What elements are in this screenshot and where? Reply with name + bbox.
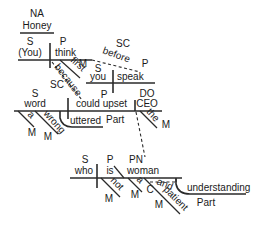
word-understanding: understanding xyxy=(187,182,250,193)
role-label-part-understanding: Part xyxy=(197,197,216,208)
role-label-m-wrong: M xyxy=(44,131,52,142)
clause-because: S word P could upset DO CEO a M wrong M … xyxy=(14,88,170,142)
role-label-c: C xyxy=(146,184,153,195)
role-label-s-who: S xyxy=(82,154,89,165)
word-who: who xyxy=(74,165,94,176)
role-label-m-not: M xyxy=(105,193,113,204)
role-label-na: NA xyxy=(30,8,44,19)
role-label-p-think: P xyxy=(60,36,67,47)
role-label-m-a: M xyxy=(28,127,36,138)
main-clause: S (You) P think first M xyxy=(18,36,92,78)
word-honey: Honey xyxy=(23,20,52,31)
word-is: is xyxy=(106,165,113,176)
nominative-address: NA Honey xyxy=(20,8,54,33)
role-label-pn: PN xyxy=(129,154,143,165)
word-you: (You) xyxy=(18,47,42,58)
word-speak: speak xyxy=(117,71,145,82)
word-uttered: uttered xyxy=(70,115,101,126)
role-label-sc-before: SC xyxy=(116,38,130,49)
word-word: word xyxy=(23,98,46,109)
role-label-m-first: M xyxy=(79,58,87,69)
role-label-p-is: P xyxy=(107,154,114,165)
word-could-upset: could upset xyxy=(76,98,127,109)
role-label-p-speak: P xyxy=(142,58,149,69)
relative-clause: S who P is PN woman not M a M C and pati… xyxy=(70,154,250,214)
role-label-sc-because: SC xyxy=(50,79,64,90)
clause-before: SC before P S you speak xyxy=(86,38,155,93)
role-label-s-you: S xyxy=(27,36,34,47)
relative-connector-line xyxy=(136,112,145,157)
role-label-m-patient: M xyxy=(155,199,163,210)
role-label-m-a-relative: M xyxy=(131,189,139,200)
role-label-part-uttered: Part xyxy=(106,114,125,125)
word-you-sub: you xyxy=(90,71,106,82)
role-label-m-the: M xyxy=(162,119,170,130)
sentence-diagram: NA Honey S (You) P think first M SC befo… xyxy=(0,0,260,228)
